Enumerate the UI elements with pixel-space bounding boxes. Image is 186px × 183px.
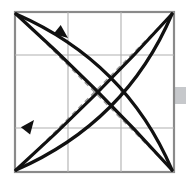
crease-pattern-svg [0, 0, 186, 183]
figure-root [0, 0, 186, 183]
